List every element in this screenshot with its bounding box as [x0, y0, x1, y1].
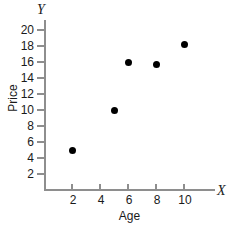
y-axis-letter: Y [37, 3, 45, 17]
y-tick [37, 141, 44, 143]
y-tick-label: 12 [12, 88, 34, 100]
data-point [181, 41, 188, 48]
x-tick-label: 6 [119, 194, 139, 206]
x-tick-label: 4 [91, 194, 111, 206]
y-tick [37, 93, 44, 95]
x-tick-label: 10 [175, 194, 195, 206]
y-tick-label: 20 [12, 24, 34, 36]
y-tick [37, 77, 44, 79]
x-axis-line [44, 189, 215, 191]
data-point [69, 147, 76, 154]
y-tick-label: 16 [12, 56, 34, 68]
y-tick [37, 29, 44, 31]
y-tick-label: 2 [12, 168, 34, 180]
data-point [125, 59, 132, 66]
y-tick [37, 109, 44, 111]
y-tick-label: 4 [12, 152, 34, 164]
scatter-plot: Y X Price Age 2468101214161820 246810 [0, 0, 230, 225]
data-point [111, 107, 118, 114]
y-tick-label: 14 [12, 72, 34, 84]
y-tick-label: 8 [12, 120, 34, 132]
y-tick-label: 18 [12, 40, 34, 52]
x-tick-label: 8 [147, 194, 167, 206]
y-tick-label: 6 [12, 136, 34, 148]
y-tick-label: 10 [12, 104, 34, 116]
y-tick [37, 61, 44, 63]
y-tick [37, 173, 44, 175]
y-tick [37, 157, 44, 159]
x-axis-letter: X [217, 184, 226, 198]
x-tick-label: 2 [63, 194, 83, 206]
x-tick [183, 184, 185, 190]
x-tick [155, 184, 157, 190]
x-tick [99, 184, 101, 190]
y-tick [37, 45, 44, 47]
y-tick [37, 125, 44, 127]
x-tick [71, 184, 73, 190]
x-axis-title: Age [44, 210, 215, 222]
y-axis-line [44, 20, 46, 191]
x-tick [127, 184, 129, 190]
data-point [153, 61, 160, 68]
